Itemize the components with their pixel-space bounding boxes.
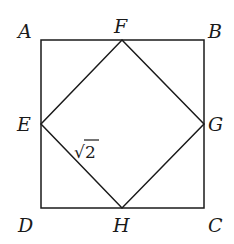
outer-square-ABCD: [41, 40, 204, 208]
label-H: H: [112, 214, 130, 236]
label-E: E: [16, 113, 31, 135]
geometry-diagram: A F B E G D H C √ 2: [0, 0, 234, 244]
radicand: 2: [85, 142, 96, 162]
label-C: C: [208, 214, 223, 236]
label-F: F: [113, 15, 128, 37]
label-A: A: [16, 20, 32, 42]
segment-EH-length-label: √ 2: [74, 140, 99, 162]
label-B: B: [207, 20, 222, 42]
label-D: D: [17, 214, 33, 236]
label-G: G: [208, 113, 223, 135]
inner-square-EFGH: [41, 40, 204, 208]
radical-sign: √: [74, 142, 85, 162]
